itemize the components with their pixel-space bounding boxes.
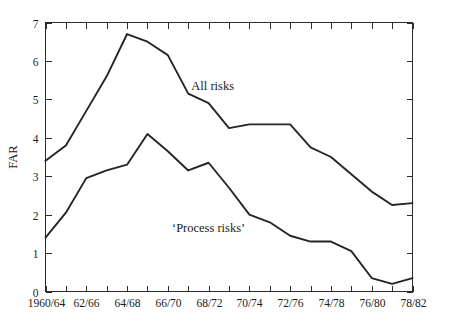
x-tick-label-2: 64/68: [114, 297, 140, 309]
chart-background: [0, 0, 451, 334]
x-tick-label-8: 76/80: [359, 297, 385, 309]
y-tick-label-2: 2: [33, 210, 39, 222]
x-tick-label-1: 62/66: [73, 297, 99, 309]
far-line-chart: 01234567 1960/6462/6664/6866/7068/7270/7…: [0, 0, 451, 334]
series-annotation-0: All risks: [191, 79, 234, 93]
y-tick-label-4: 4: [33, 133, 39, 145]
chart-canvas: 01234567 1960/6462/6664/6866/7068/7270/7…: [0, 0, 451, 334]
y-tick-label-1: 1: [33, 248, 39, 260]
x-tick-label-7: 74/78: [318, 297, 344, 309]
y-tick-label-7: 7: [33, 18, 39, 30]
x-tick-label-6: 72/76: [277, 297, 303, 309]
y-axis-title: FAR: [6, 145, 20, 169]
x-tick-label-3: 66/70: [155, 297, 181, 309]
y-tick-label-5: 5: [33, 94, 39, 106]
x-tick-label-0: 1960/64: [28, 297, 66, 309]
y-tick-label-6: 6: [33, 56, 39, 68]
y-tick-label-3: 3: [33, 171, 39, 183]
x-tick-label-9: 78/82: [400, 297, 426, 309]
x-tick-label-5: 70/74: [236, 297, 262, 309]
x-tick-label-4: 68/72: [196, 297, 222, 309]
series-annotation-1: ‘Process risks’: [172, 221, 245, 235]
